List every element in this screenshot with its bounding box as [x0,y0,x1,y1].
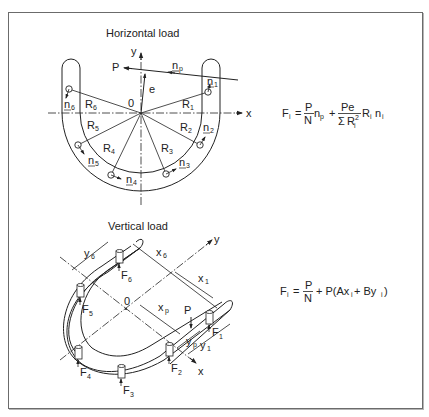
svg-text:y: y [200,339,206,351]
load-arrow-icon [124,68,132,69]
svg-text:1: 1 [219,333,223,340]
iso-x-axis-label: x [198,365,204,377]
iso-origin-label: 0 [124,295,130,307]
n4-label: n4 [126,173,137,186]
svg-text:x: x [156,246,162,258]
svg-text:P: P [305,279,312,291]
svg-text:6: 6 [71,104,75,111]
svg-text:2: 2 [188,127,192,134]
iso-y-axis-arrow-icon [206,240,212,245]
svg-text:5: 5 [95,160,99,167]
svg-text:x: x [158,301,164,313]
dimension-labels: x6 x1 xp y6 yp y1 [84,246,211,352]
svg-text:i: i [370,113,372,120]
svg-text:F: F [282,107,289,119]
svg-text:4: 4 [111,148,115,155]
svg-text:R: R [362,107,370,119]
r5-label: R5 [87,119,99,132]
svg-text:F: F [171,362,178,374]
iso-load-label: P [184,304,191,316]
horizontal-load-equation: F i = P N n p + Pe Σ R i 2 R i n i [282,101,384,129]
svg-text:i: i [287,291,289,298]
f5-label: F5 [82,303,93,317]
svg-text:F: F [123,384,130,396]
bolt-1 [206,311,213,325]
svg-text:+ P(Ax: + P(Ax [316,285,350,297]
svg-text:1: 1 [214,81,218,88]
svg-text:+: + [329,107,335,119]
n6-label: n6 [64,98,75,111]
svg-text:R: R [87,119,95,131]
svg-text:2: 2 [355,114,359,121]
vertical-load-diagram: Vertical load y x 0 x6 x1 xp y6 [60,220,388,398]
svg-text:n: n [88,154,94,166]
svg-text:n: n [172,59,178,71]
f6-label: F6 [121,269,132,283]
bolt-2 [166,343,173,357]
r4-label: R4 [103,142,115,155]
vertical-load-title: Vertical load [108,220,168,232]
svg-text:F: F [121,269,128,281]
radius-labels: R1 R2 R3 R4 R5 R6 [85,98,194,155]
svg-text:p: p [165,307,169,315]
xp-label: xp [158,301,169,315]
svg-text:n: n [207,75,213,87]
svg-text:F: F [212,326,219,338]
iso-origin-point [125,308,127,310]
svg-text:F: F [80,366,87,378]
y1-label: y1 [200,339,211,352]
svg-text:F: F [82,303,89,315]
eccentricity-label: e [149,83,155,95]
svg-text:1: 1 [190,104,194,111]
svg-text:R: R [182,98,190,110]
svg-text:y: y [84,247,90,259]
svg-text:n: n [179,156,185,168]
svg-text:R: R [103,142,111,154]
r6-label: R6 [85,98,97,111]
svg-text:N: N [304,114,312,126]
svg-text:3: 3 [130,391,134,398]
n3-label: n3 [179,156,190,169]
svg-text:5: 5 [89,310,93,317]
bolt-3 [118,365,125,379]
svg-text:1: 1 [207,345,211,352]
y6-label: y6 [84,247,95,260]
svg-text:6: 6 [128,276,132,283]
svg-text:3: 3 [169,148,173,155]
svg-text:y: y [186,335,192,347]
svg-text:6: 6 [163,252,167,259]
x1-label: x1 [198,272,209,285]
svg-text:5: 5 [95,125,99,132]
f1-label: F1 [212,326,223,340]
horizontal-load-diagram: Horizontal load x y 0 P n p e [48,27,384,205]
svg-text:R: R [180,121,188,133]
np-label: n p [172,59,183,73]
svg-text:): ) [384,285,388,297]
n1-label: n1 [207,75,218,88]
f2-label: F2 [171,362,182,376]
svg-text:i: i [354,122,356,129]
svg-text:n: n [375,107,381,119]
svg-text:6: 6 [91,253,95,260]
iso-x-axis-arrow-icon [190,358,196,363]
n2-label: n2 [203,121,214,134]
svg-text:2: 2 [178,369,182,376]
svg-text:=: = [293,285,299,297]
svg-text:n: n [203,121,209,133]
load-label: P [112,61,119,73]
force-labels: F1 F2 F3 F4 F5 F6 [80,269,223,398]
bolts [75,250,213,379]
svg-text:6: 6 [93,104,97,111]
svg-text:2: 2 [210,127,214,134]
svg-text:Pe: Pe [341,101,354,113]
y-axis-label: y [131,45,137,57]
svg-text:i: i [382,113,384,120]
iso-y-axis-label: y [214,233,220,245]
x6-label: x6 [156,246,167,259]
svg-text:Σ: Σ [338,115,345,127]
horizontal-load-title: Horizontal load [106,27,179,39]
svg-text:R: R [85,98,93,110]
r2-label: R2 [180,121,192,134]
f3-label: F3 [123,384,134,398]
svg-text:i: i [381,291,383,298]
